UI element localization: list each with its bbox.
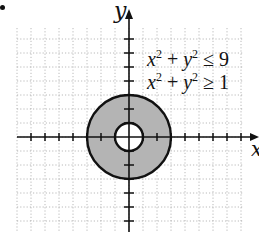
y-axis-label: y (114, 0, 126, 23)
inequality-inner: x2 + y2 ≥ 1 (147, 71, 229, 93)
inequality-outer: x2 + y2 ≤ 9 (147, 48, 229, 70)
graph-canvas (0, 0, 259, 232)
x-axis-label: x (251, 137, 259, 161)
